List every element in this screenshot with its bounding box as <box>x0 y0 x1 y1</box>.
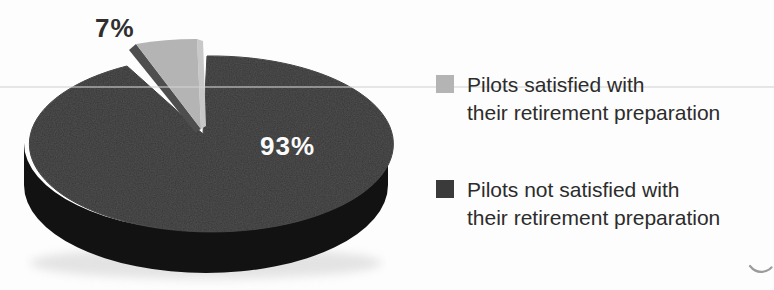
slice-not-satisfied-grain <box>29 56 393 232</box>
legend-item-not-satisfied: Pilots not satisfied with their retireme… <box>436 176 720 232</box>
legend-swatch-satisfied <box>436 75 454 93</box>
legend-swatch-not-satisfied-rect <box>436 180 454 198</box>
label-not-satisfied-percent: 93% <box>260 131 315 162</box>
legend-swatch-satisfied-rect <box>436 75 454 93</box>
legend-not-satisfied-line1: Pilots not satisfied with <box>467 176 720 204</box>
legend-swatch-not-satisfied <box>436 180 454 198</box>
label-satisfied-percent: 7% <box>95 13 135 44</box>
legend-satisfied-line2: their retirement preparation <box>467 99 720 127</box>
legend-not-satisfied-line2: their retirement preparation <box>467 204 720 232</box>
figure-pilots-retirement-pie: 7% 93% Pilots satisfied with their retir… <box>0 0 774 290</box>
legend-label-not-satisfied: Pilots not satisfied with their retireme… <box>467 176 720 232</box>
legend-item-satisfied: Pilots satisfied with their retirement p… <box>436 71 720 127</box>
pen-mark-artifact <box>750 266 772 272</box>
legend-label-satisfied: Pilots satisfied with their retirement p… <box>467 71 720 127</box>
legend-satisfied-line1: Pilots satisfied with <box>467 71 720 99</box>
